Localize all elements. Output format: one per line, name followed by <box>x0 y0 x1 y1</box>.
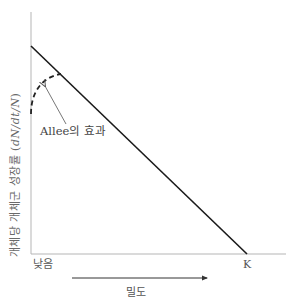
y-axis-label-text: 개체당 개체군 성장률 ( <box>9 146 22 257</box>
x-tick-k: K <box>243 259 251 270</box>
annotation-pointer-arrow <box>45 86 66 124</box>
per-capita-growth-line <box>31 46 247 254</box>
x-axis-title: 밀도 <box>126 287 146 298</box>
allee-effect-diagram: 개체당 개체군 성장률 (dN/dt/N) Allee의 효과 낮음 K 밀도 <box>0 0 296 305</box>
y-axis-label-formula: dN/dt/N <box>9 97 22 146</box>
y-axis-label: 개체당 개체군 성장률 (dN/dt/N) <box>6 93 22 258</box>
allee-effect-annotation: Allee의 효과 <box>40 126 106 138</box>
x-tick-low: 낮음 <box>33 259 53 270</box>
allee-effect-dashed-curve <box>31 74 61 114</box>
y-axis-label-suffix: ) <box>9 93 22 98</box>
